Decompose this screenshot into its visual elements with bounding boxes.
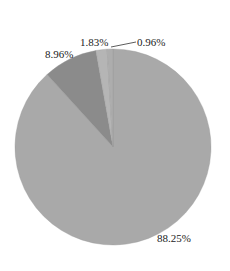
label-8-96: 8.96% xyxy=(45,48,73,60)
pie-chart xyxy=(0,0,230,271)
pie-slices xyxy=(15,49,211,245)
label-1-83: 1.83% xyxy=(80,36,108,48)
label-88-25: 88.25% xyxy=(157,232,191,244)
leader-line-0-96 xyxy=(111,42,136,47)
label-0-96: 0.96% xyxy=(137,36,165,48)
